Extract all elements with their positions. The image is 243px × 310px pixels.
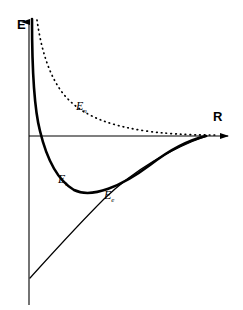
plot-canvas [0, 0, 243, 310]
curve-label-et-sub: t [65, 180, 67, 188]
curve-label-et: Et [58, 173, 67, 188]
curve-label-en-sub: n [83, 107, 87, 115]
curve-label-en: En [76, 100, 87, 115]
curve-label-ee-sub: e [111, 196, 114, 204]
curve-en-nuclear-repulsion [37, 20, 218, 135]
curve-et-total-energy [32, 19, 206, 193]
potential-energy-figure: E R En Et Ee [0, 0, 243, 310]
curve-label-ee: Ee [104, 189, 114, 204]
y-axis-label: E [17, 18, 26, 31]
curve-ee-electronic-energy [30, 136, 207, 278]
x-axis-label: R [213, 110, 222, 123]
